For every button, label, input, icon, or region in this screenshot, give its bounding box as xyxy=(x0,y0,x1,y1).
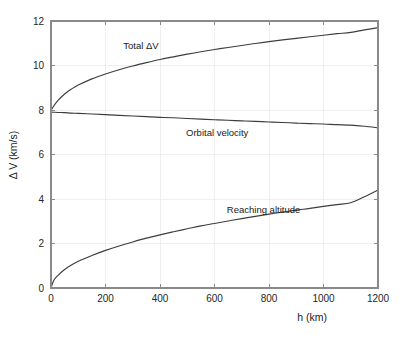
series-label-reaching-altitude: Reaching altitude xyxy=(227,204,300,215)
x-tick-label: 800 xyxy=(261,293,278,304)
x-tick-label: 1000 xyxy=(312,293,335,304)
y-tick-label: 6 xyxy=(38,149,44,160)
y-tick-label: 8 xyxy=(38,105,44,116)
series-label-total-v: Total ΔV xyxy=(123,40,159,51)
y-tick-label: 2 xyxy=(38,238,44,249)
x-tick-label: 600 xyxy=(206,293,223,304)
y-tick-label: 10 xyxy=(33,60,45,71)
y-axis-title: Δ V (km/s) xyxy=(7,131,19,179)
x-tick-label: 400 xyxy=(152,293,169,304)
y-tick-label: 0 xyxy=(38,283,44,294)
series-label-orbital-velocity: Orbital velocity xyxy=(186,127,249,138)
x-tick-label: 1200 xyxy=(367,293,390,304)
x-axis-title: h (km) xyxy=(297,311,327,323)
y-tick-label: 12 xyxy=(33,16,45,27)
chart-canvas: 020040060080010001200 024681012 h (km) Δ… xyxy=(0,0,405,340)
x-tick-label: 0 xyxy=(48,293,54,304)
y-tick-label: 4 xyxy=(38,194,44,205)
chart-figure: 020040060080010001200 024681012 h (km) Δ… xyxy=(0,0,405,340)
x-tick-label: 200 xyxy=(97,293,114,304)
